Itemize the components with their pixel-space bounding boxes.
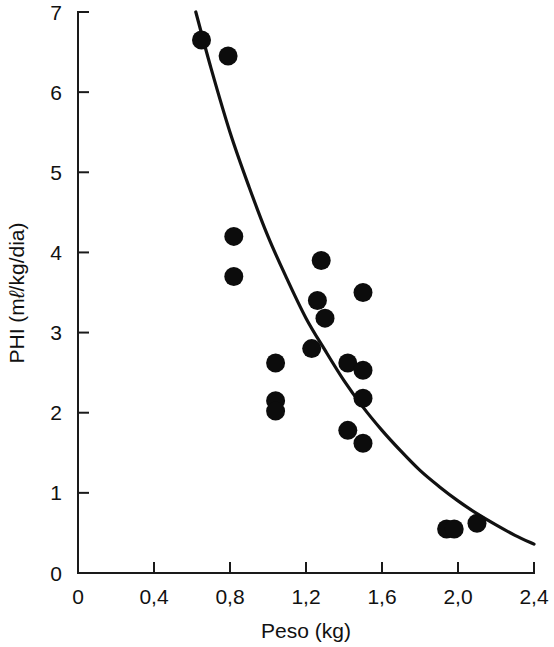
data-points-group — [192, 31, 487, 539]
y-tick-label-5: 5 — [50, 161, 62, 184]
y-axis-title: PHI (mℓ/kg/dia) — [5, 223, 28, 364]
x-tick-label-5: 2,0 — [443, 585, 472, 608]
data-point-12 — [354, 283, 373, 302]
x-axis-title: Peso (kg) — [261, 619, 351, 642]
x-tick-label-6: 2,4 — [519, 585, 549, 608]
x-tick-label-0: 0 — [72, 585, 84, 608]
y-tick-label-6: 6 — [50, 81, 62, 104]
y-axis-title-prefix: PHI (m — [5, 298, 28, 363]
data-point-0 — [192, 31, 211, 50]
chart-svg: 01234567 00,40,81,21,62,02,4 Peso (kg) P… — [0, 0, 554, 647]
y-tick-label-7: 7 — [50, 1, 62, 24]
data-point-6 — [266, 402, 285, 421]
data-point-2 — [224, 227, 243, 246]
y-tick-label-0: 0 — [50, 562, 62, 585]
data-point-1 — [219, 47, 238, 66]
y-axis-ticks — [78, 12, 89, 573]
data-point-4 — [266, 354, 285, 373]
data-point-14 — [354, 389, 373, 408]
x-tick-label-3: 1,2 — [291, 585, 320, 608]
data-point-15 — [338, 421, 357, 440]
data-point-7 — [312, 251, 331, 270]
fitted-regression-curve — [196, 12, 534, 544]
data-point-9 — [316, 309, 335, 328]
y-axis-title-suffix: /kg/dia) — [5, 223, 28, 292]
x-tick-label-1: 0,4 — [139, 585, 169, 608]
data-point-19 — [468, 514, 487, 533]
fit-curve-group — [196, 12, 534, 544]
y-tick-label-2: 2 — [50, 401, 62, 424]
scatter-plot-figure: 01234567 00,40,81,21,62,02,4 Peso (kg) P… — [0, 0, 554, 647]
data-point-16 — [354, 434, 373, 453]
y-axis-tick-labels: 01234567 — [50, 1, 62, 585]
data-point-8 — [308, 291, 327, 310]
data-point-13 — [354, 361, 373, 380]
y-tick-label-3: 3 — [50, 321, 62, 344]
data-point-10 — [302, 339, 321, 358]
x-axis-ticks — [78, 562, 534, 573]
x-tick-label-4: 1,6 — [367, 585, 396, 608]
x-tick-label-2: 0,8 — [215, 585, 244, 608]
data-point-3 — [224, 267, 243, 286]
y-tick-label-4: 4 — [50, 241, 62, 264]
x-axis-tick-labels: 00,40,81,21,62,02,4 — [72, 585, 549, 608]
data-point-18 — [445, 519, 464, 538]
y-tick-label-1: 1 — [50, 481, 62, 504]
